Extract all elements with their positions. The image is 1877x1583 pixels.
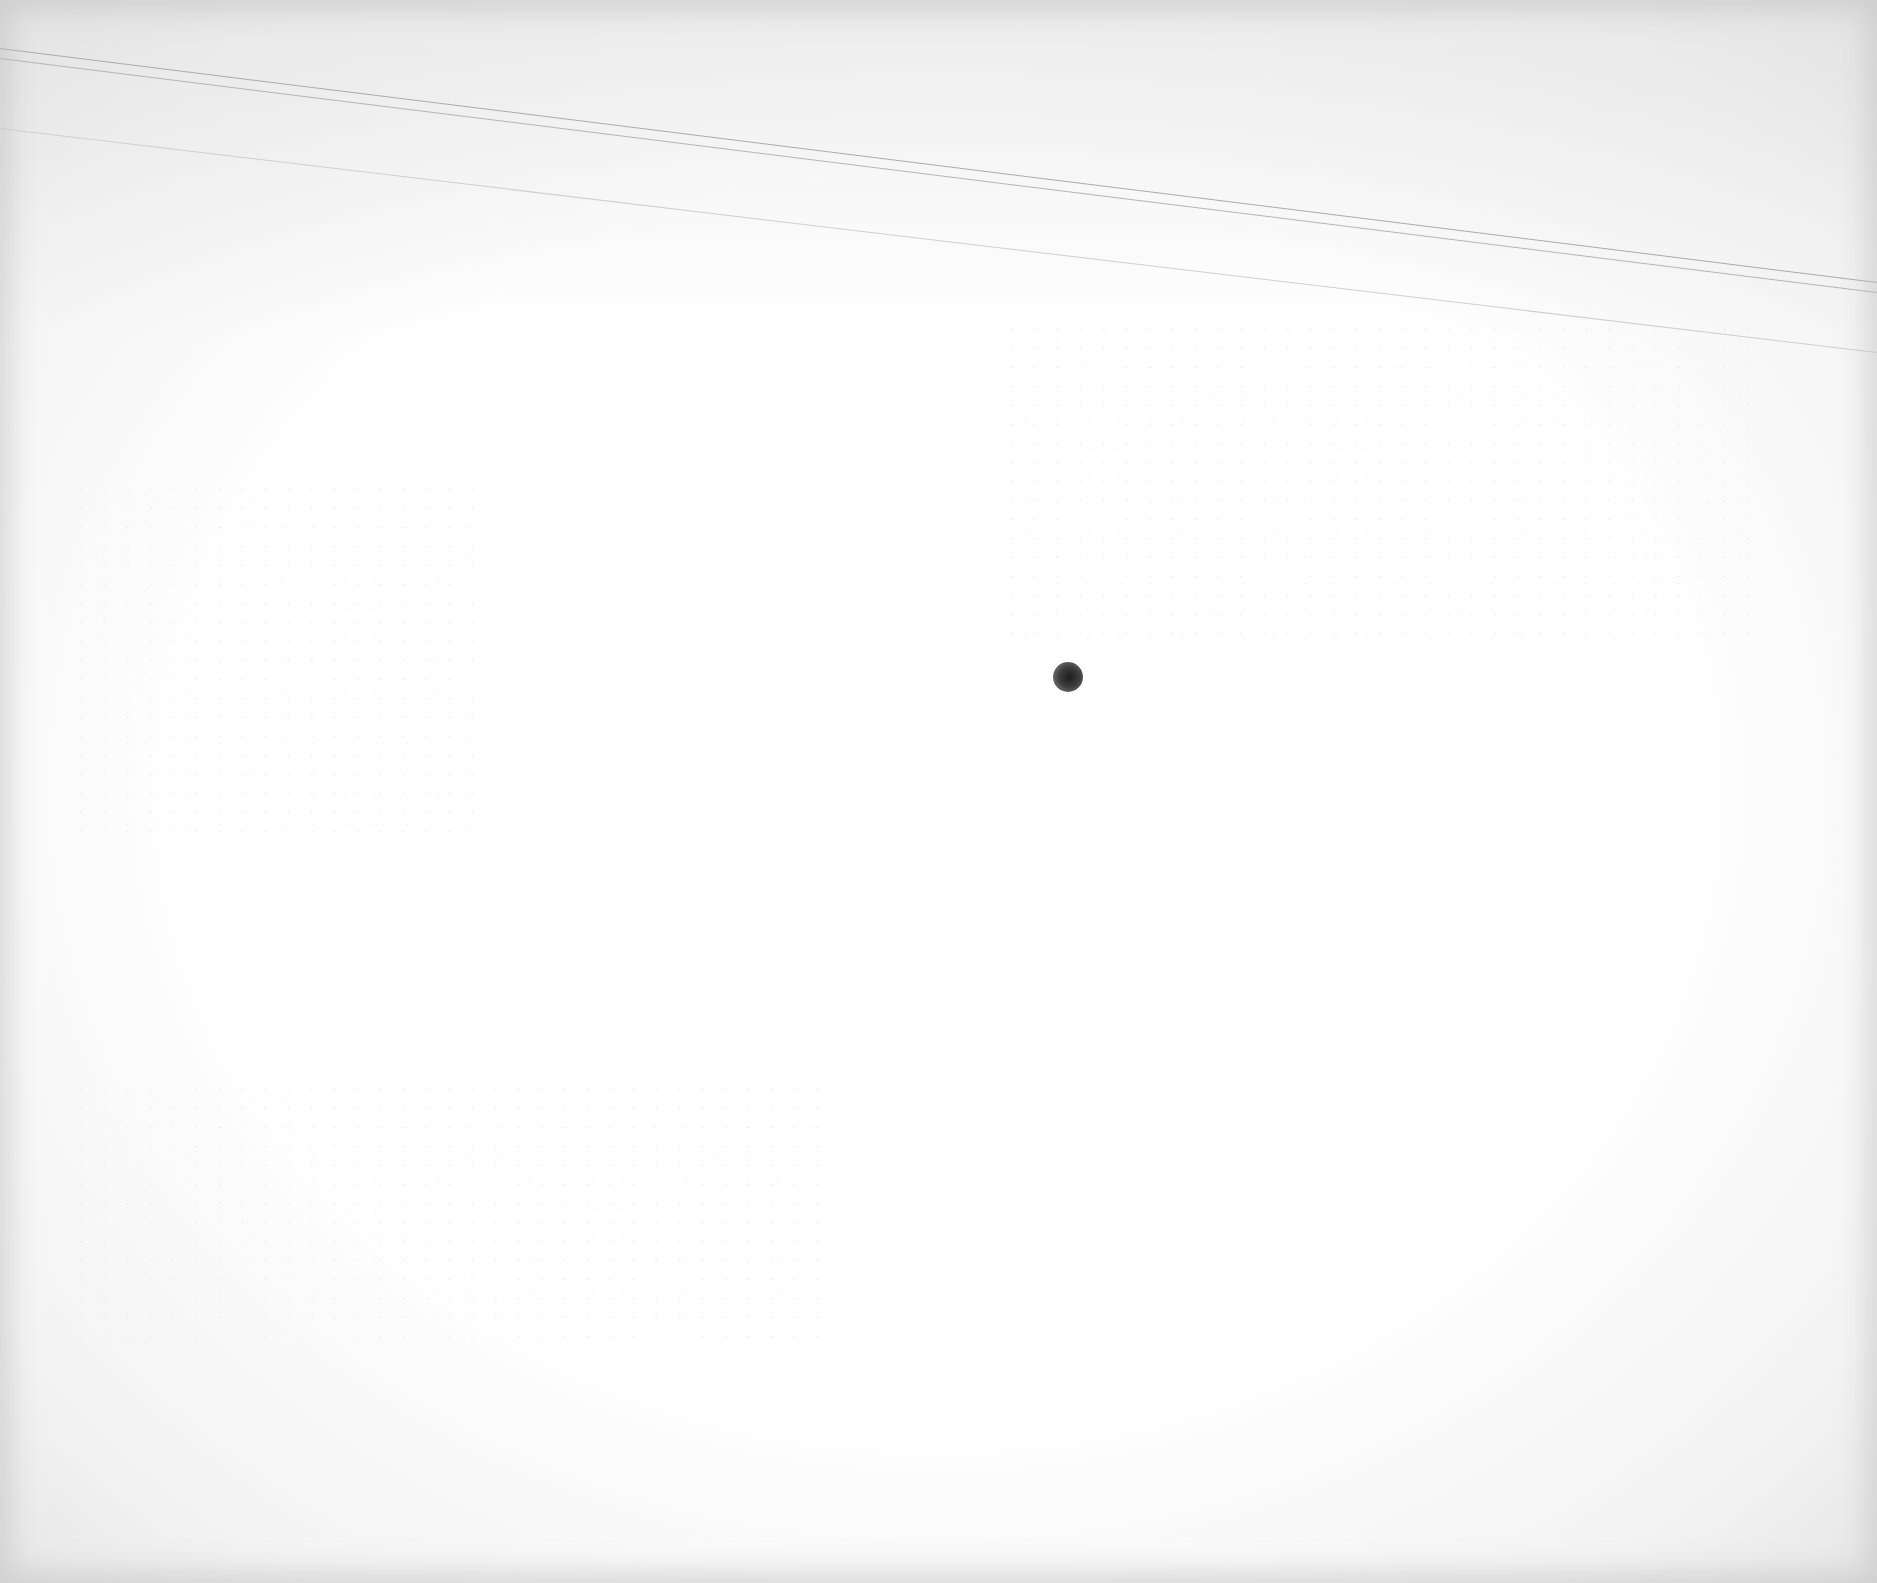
bleed-through-region-center [1000, 320, 1760, 640]
bleed-through-region-bottom [70, 1080, 830, 1340]
scan-haze [0, 0, 1877, 340]
bleed-through-region-left [70, 480, 490, 840]
scanned-page [0, 0, 1877, 1583]
ink-dot [1053, 662, 1083, 692]
